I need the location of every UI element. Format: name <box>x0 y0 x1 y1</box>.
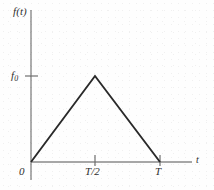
figure-container: f(t) f0 0 T/2 T t <box>0 0 214 190</box>
y-tick-label-f0: f0 <box>11 70 18 83</box>
x-axis-label: t <box>196 155 199 165</box>
plot-canvas <box>0 0 214 190</box>
y-axis-label: f(t) <box>13 6 27 17</box>
triangular-pulse-curve <box>31 76 160 162</box>
origin-label: 0 <box>19 166 25 177</box>
x-tick-label-t-full: T <box>155 166 161 177</box>
y-tick-label-f0-subscript: 0 <box>14 74 18 83</box>
x-tick-label-t-half: T/2 <box>85 166 100 177</box>
